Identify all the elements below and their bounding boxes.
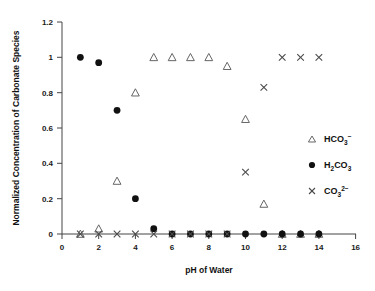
x-tick-label: 12	[278, 243, 287, 252]
chart-canvas: 0 0.2 0.4 0.6 0.8 1 1.2 0 2 4 6 8	[0, 0, 375, 291]
data-point-open-triangle	[113, 177, 121, 184]
data-point-open-triangle	[223, 62, 231, 69]
data-point-filled-circle	[316, 231, 323, 238]
x-tick-label: 4	[133, 243, 138, 252]
carbonate-speciation-chart: 0 0.2 0.4 0.6 0.8 1 1.2 0 2 4 6 8	[0, 0, 375, 291]
data-point-filled-circle	[95, 59, 102, 66]
data-point-open-triangle	[205, 53, 213, 60]
x-tick-label: 8	[207, 243, 212, 252]
x-axis-tick-labels: 0 2 4 6 8 10 12 14 16	[60, 243, 361, 252]
x-tick-label: 6	[170, 243, 175, 252]
y-axis-tick-labels: 0 0.2 0.4 0.6 0.8 1 1.2	[42, 18, 54, 239]
x-tick-label: 14	[314, 243, 323, 252]
data-point-open-triangle	[260, 200, 268, 207]
data-point-x	[316, 54, 323, 61]
legend-label-h2co3: H2CO3	[324, 160, 352, 172]
legend-item-h2co3: H2CO3	[309, 160, 352, 172]
filled-circle-icon	[309, 162, 315, 168]
y-tick-label: 1.2	[42, 18, 54, 27]
data-point-filled-circle	[132, 195, 139, 202]
y-axis-title: Normalized Concentration of Carbonate Sp…	[11, 30, 21, 225]
x-axis-title: pH of Water	[185, 265, 233, 275]
x-marker-icon	[309, 188, 315, 194]
data-point-filled-circle	[242, 231, 249, 238]
data-point-filled-circle	[279, 231, 286, 238]
data-point-x	[261, 84, 268, 91]
data-point-x	[297, 54, 304, 61]
y-tick-label: 1	[49, 53, 54, 62]
data-point-open-triangle	[242, 115, 250, 122]
y-tick-label: 0.6	[42, 124, 54, 133]
chart-legend: HCO3− H2CO3 CO32−	[308, 133, 351, 198]
data-point-filled-circle	[77, 54, 84, 61]
y-axis-ticks	[57, 22, 62, 234]
data-point-open-triangle	[187, 53, 195, 60]
open-triangle-icon	[308, 136, 315, 142]
data-point-open-triangle	[168, 53, 176, 60]
legend-label-hco3: HCO3−	[324, 133, 352, 146]
y-tick-label: 0.4	[42, 159, 54, 168]
y-tick-label: 0	[49, 230, 54, 239]
data-point-x	[279, 54, 286, 61]
data-point-filled-circle	[114, 107, 121, 114]
series-h2co3	[77, 54, 322, 237]
data-markers-group	[76, 53, 322, 237]
data-point-open-triangle	[150, 53, 158, 60]
x-tick-label: 10	[241, 243, 250, 252]
data-point-filled-circle	[260, 231, 267, 238]
legend-label-co3: CO32−	[324, 185, 349, 198]
series-hco3	[76, 53, 322, 237]
legend-item-hco3: HCO3−	[308, 133, 351, 146]
data-point-filled-circle	[297, 231, 304, 238]
x-tick-label: 2	[96, 243, 101, 252]
legend-item-co3: CO32−	[309, 185, 349, 198]
y-tick-label: 0.2	[42, 195, 54, 204]
series-co3-2	[77, 54, 322, 237]
y-tick-label: 0.8	[42, 89, 54, 98]
data-point-open-triangle	[132, 89, 140, 96]
data-point-x	[242, 169, 249, 176]
x-tick-label: 0	[60, 243, 65, 252]
x-tick-label: 16	[351, 243, 360, 252]
